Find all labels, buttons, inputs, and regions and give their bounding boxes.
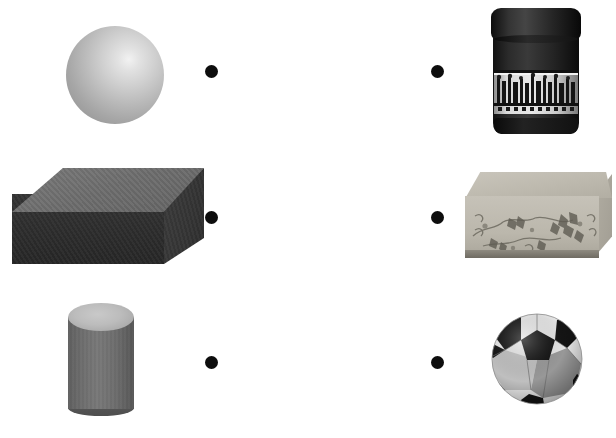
worksheet-canvas	[0, 0, 616, 438]
object-decorated-box[interactable]	[464, 172, 612, 260]
object-tin-canister[interactable]	[491, 8, 581, 135]
connector-dot-left-row3[interactable]	[205, 356, 218, 369]
decobox-top-face	[464, 172, 612, 198]
tin-decorative-band	[494, 70, 578, 114]
connector-dot-left-row1[interactable]	[205, 65, 218, 78]
decobox-front-face	[465, 196, 599, 258]
tin-lid-edge	[494, 35, 578, 43]
connector-dot-right-row3[interactable]	[431, 356, 444, 369]
connector-dot-left-row2[interactable]	[205, 211, 218, 224]
tin-band-figures-icon	[494, 70, 578, 114]
decobox-base-trim	[465, 250, 599, 258]
connector-dot-right-row2[interactable]	[431, 211, 444, 224]
soccer-ball-icon	[491, 312, 583, 406]
connector-dot-right-row1[interactable]	[431, 65, 444, 78]
shape-rectangular-prism[interactable]	[12, 168, 204, 268]
floral-pattern-icon	[465, 196, 599, 258]
object-soccer-ball[interactable]	[491, 312, 583, 406]
shape-sphere[interactable]	[66, 26, 164, 124]
shape-cylinder[interactable]	[68, 303, 134, 416]
tin-base	[494, 118, 578, 134]
cylinder-top-ellipse	[68, 303, 134, 331]
